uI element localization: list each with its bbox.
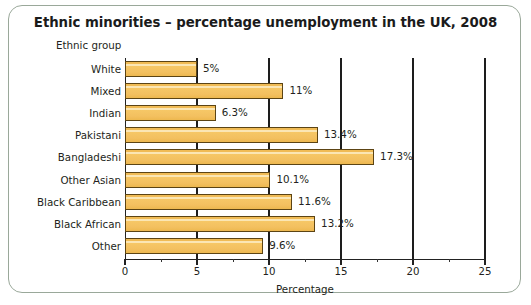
plot-area: 0510152025 White5%Mixed11%Indian6.3%Paki… bbox=[125, 58, 485, 259]
category-label-wrap: Pakistani bbox=[9, 127, 121, 143]
bar-pakistani bbox=[125, 127, 318, 143]
bar-indian bbox=[125, 105, 216, 121]
bar-value-black-african: 13.2% bbox=[321, 217, 354, 229]
bar-value-other: 9.6% bbox=[269, 239, 295, 251]
category-label-other-asian: Other Asian bbox=[9, 172, 121, 188]
bar-row: Mixed11% bbox=[125, 83, 485, 99]
bar-row: Other9.6% bbox=[125, 238, 485, 254]
chart-card: Ethnic minorities – percentage unemploym… bbox=[8, 5, 521, 293]
x-tick-10 bbox=[268, 259, 269, 265]
bar-row: Pakistani13.4% bbox=[125, 127, 485, 143]
category-label-wrap: White bbox=[9, 61, 121, 77]
bar-value-pakistani: 13.4% bbox=[324, 128, 357, 140]
bar-value-white: 5% bbox=[203, 62, 219, 74]
x-tick-label-5: 5 bbox=[194, 266, 200, 277]
bar-bangladeshi bbox=[125, 149, 374, 165]
x-tick-15 bbox=[340, 259, 341, 265]
category-label-other: Other bbox=[9, 238, 121, 254]
x-minor-tick-7.5 bbox=[233, 259, 234, 262]
category-label-wrap: Mixed bbox=[9, 83, 121, 99]
category-label-bangladeshi: Bangladeshi bbox=[9, 149, 121, 165]
bar-row: Indian6.3% bbox=[125, 105, 485, 121]
category-label-wrap: Other bbox=[9, 238, 121, 254]
category-label-white: White bbox=[9, 61, 121, 77]
bar-value-mixed: 11% bbox=[289, 84, 312, 96]
x-minor-tick-12.5 bbox=[305, 259, 306, 262]
bar-black-caribbean bbox=[125, 194, 292, 210]
bar-mixed bbox=[125, 83, 283, 99]
x-tick-label-10: 10 bbox=[263, 266, 276, 277]
x-tick-20 bbox=[412, 259, 413, 265]
bar-other bbox=[125, 238, 263, 254]
category-axis-caption: Ethnic group bbox=[56, 39, 121, 51]
category-label-wrap: Black Caribbean bbox=[9, 194, 121, 210]
bar-white bbox=[125, 61, 197, 77]
category-label-wrap: Other Asian bbox=[9, 172, 121, 188]
category-label-wrap: Bangladeshi bbox=[9, 149, 121, 165]
x-tick-5 bbox=[196, 259, 197, 265]
category-label-black-caribbean: Black Caribbean bbox=[9, 194, 121, 210]
category-label-indian: Indian bbox=[9, 105, 121, 121]
bar-black-african bbox=[125, 216, 315, 232]
bar-row: Other Asian10.1% bbox=[125, 172, 485, 188]
bar-row: Black African13.2% bbox=[125, 216, 485, 232]
bar-value-black-caribbean: 11.6% bbox=[298, 195, 331, 207]
x-tick-label-15: 15 bbox=[335, 266, 348, 277]
x-tick-label-25: 25 bbox=[479, 266, 492, 277]
bar-row: White5% bbox=[125, 61, 485, 77]
x-tick-25 bbox=[484, 259, 485, 265]
bar-other-asian bbox=[125, 172, 270, 188]
bar-row: Black Caribbean11.6% bbox=[125, 194, 485, 210]
bar-row: Bangladeshi17.3% bbox=[125, 149, 485, 165]
bar-value-bangladeshi: 17.3% bbox=[380, 150, 413, 162]
x-tick-0 bbox=[124, 259, 125, 265]
x-minor-tick-17.5 bbox=[377, 259, 378, 262]
x-minor-tick-22.5 bbox=[449, 259, 450, 262]
category-label-pakistani: Pakistani bbox=[9, 127, 121, 143]
bar-value-other-asian: 10.1% bbox=[276, 173, 309, 185]
category-label-mixed: Mixed bbox=[9, 83, 121, 99]
x-tick-label-0: 0 bbox=[122, 266, 128, 277]
x-minor-tick-2.5 bbox=[161, 259, 162, 262]
x-axis-label: Percentage bbox=[125, 283, 485, 295]
chart-title: Ethnic minorities – percentage unemploym… bbox=[9, 15, 522, 30]
category-label-black-african: Black African bbox=[9, 216, 121, 232]
x-tick-label-20: 20 bbox=[407, 266, 420, 277]
category-label-wrap: Indian bbox=[9, 105, 121, 121]
bar-value-indian: 6.3% bbox=[222, 106, 248, 118]
category-label-wrap: Black African bbox=[9, 216, 121, 232]
